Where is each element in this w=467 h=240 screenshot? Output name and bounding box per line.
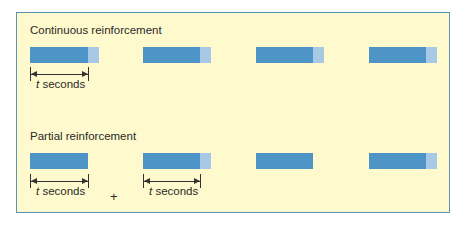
continuous-trial-2 <box>143 47 211 63</box>
response-segment <box>30 47 88 63</box>
response-segment <box>369 47 426 63</box>
reinforcement-segment <box>88 47 99 63</box>
reinforcement-segment <box>426 47 437 63</box>
response-segment <box>256 153 313 169</box>
continuous-title: Continuous reinforcement <box>30 24 162 36</box>
partial-title: Partial reinforcement <box>30 130 136 142</box>
arrowhead-left-icon <box>144 178 150 184</box>
continuous-interval-label: t seconds <box>36 78 85 90</box>
reinforcement-segment <box>313 47 324 63</box>
arrowhead-left-icon <box>31 178 37 184</box>
response-segment <box>369 153 426 169</box>
response-segment <box>256 47 313 63</box>
response-segment <box>143 153 200 169</box>
partial-interval-label-2: t seconds <box>149 185 198 197</box>
response-segment <box>143 47 200 63</box>
arrowhead-left-icon <box>31 71 37 77</box>
reinforcement-segment <box>200 153 211 169</box>
partial-trial-3 <box>256 153 313 169</box>
continuous-trial-4 <box>369 47 437 63</box>
reinforcement-segment <box>426 153 437 169</box>
partial-interval-label-1: t seconds <box>36 185 85 197</box>
response-segment <box>30 153 88 169</box>
reinforcement-segment <box>200 47 211 63</box>
partial-trial-1 <box>30 153 88 169</box>
partial-trial-2 <box>143 153 211 169</box>
arrowhead-right-icon <box>82 71 88 77</box>
continuous-trial-3 <box>256 47 324 63</box>
arrowhead-right-icon <box>82 178 88 184</box>
plus-sign: + <box>110 189 118 204</box>
partial-trial-4 <box>369 153 437 169</box>
continuous-trial-1 <box>30 47 99 63</box>
arrowhead-right-icon <box>194 178 200 184</box>
